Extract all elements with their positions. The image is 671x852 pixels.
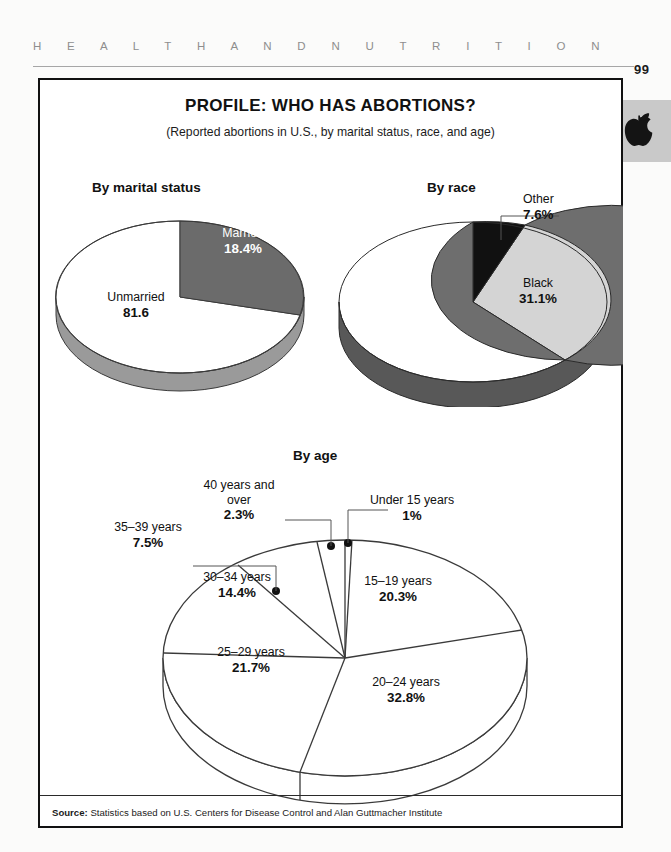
- pie-callout-35-39: 35–39 years 7.5%: [100, 520, 196, 550]
- age2529-name: 25–29 years: [217, 645, 285, 659]
- age1519-percent: 20.3%: [357, 589, 439, 605]
- source-note: Source: Statistics based on U.S. Centers…: [52, 807, 442, 818]
- age3539-percent: 7.5%: [100, 535, 196, 551]
- header-rule: [33, 66, 634, 67]
- figure-subtitle: (Reported abortions in U.S., by marital …: [40, 125, 621, 139]
- age2024-percent: 32.8%: [365, 690, 447, 706]
- white-name: White: [397, 272, 428, 286]
- age3034-name: 30–34 years: [203, 570, 271, 584]
- white-percent: 61.3%: [370, 287, 456, 303]
- pie-slice-label-black: Black 31.1%: [496, 276, 580, 306]
- pie-slice-label-unmarried: Unmarried 81.6: [78, 290, 194, 320]
- pie-slice-label-white: White 61.3%: [370, 272, 456, 302]
- pie-slice-label-20-24: 20–24 years 32.8%: [365, 675, 447, 705]
- age3034-percent: 14.4%: [197, 585, 277, 601]
- pie-callout-other: Other 7.6%: [523, 192, 619, 222]
- source-text: Statistics based on U.S. Centers for Dis…: [90, 807, 442, 818]
- under15-percent: 1%: [353, 508, 471, 524]
- pie-slice-label-30-34: 30–34 years 14.4%: [197, 570, 277, 600]
- unmarried-name: Unmarried: [107, 290, 164, 304]
- age3539-name: 35–39 years: [100, 520, 196, 535]
- age1519-name: 15–19 years: [364, 574, 432, 588]
- source-prefix: Source:: [52, 807, 88, 818]
- black-name: Black: [523, 276, 553, 290]
- apple-icon: [622, 112, 658, 150]
- pie-callout-40-and-over: 40 years and over 2.3%: [196, 478, 282, 523]
- other-percent: 7.6%: [523, 207, 619, 223]
- pie-callout-under-15: Under 15 years 1%: [353, 493, 471, 523]
- figure-frame: PROFILE: WHO HAS ABORTIONS? (Reported ab…: [38, 78, 623, 828]
- under15-name: Under 15 years: [353, 493, 471, 508]
- black-percent: 31.1%: [496, 291, 580, 307]
- panel-title-race: By race: [427, 180, 476, 195]
- age2529-percent: 21.7%: [210, 660, 292, 676]
- panel-title-marital-status: By marital status: [92, 180, 201, 195]
- source-divider: [40, 795, 621, 796]
- age40-percent: 2.3%: [196, 507, 282, 523]
- married-name: Married: [222, 226, 264, 240]
- pie-slice-label-25-29: 25–29 years 21.7%: [210, 645, 292, 675]
- running-head: H E A L T H A N D N U T R I T I O N: [33, 40, 623, 52]
- unmarried-percent: 81.6: [78, 305, 194, 321]
- pie-slice-label-married: Married 18.4%: [190, 226, 296, 256]
- married-percent: 18.4%: [190, 241, 296, 257]
- other-name: Other: [523, 192, 619, 207]
- pie-slice-label-15-19: 15–19 years 20.3%: [357, 574, 439, 604]
- panel-title-age: By age: [293, 448, 337, 463]
- page-number: 99: [634, 62, 649, 77]
- age2024-name: 20–24 years: [372, 675, 440, 689]
- figure-title: PROFILE: WHO HAS ABORTIONS?: [40, 96, 621, 116]
- age40-name: 40 years and over: [196, 478, 282, 507]
